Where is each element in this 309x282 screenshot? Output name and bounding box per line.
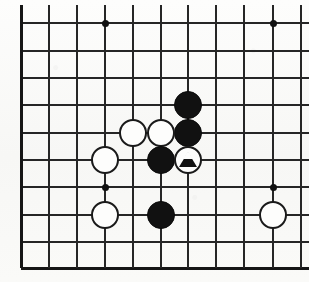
white-stone[interactable]: [147, 119, 175, 147]
white-stone-marked-triangle[interactable]: [174, 146, 202, 174]
black-stone[interactable]: [147, 201, 175, 229]
black-stone[interactable]: [174, 91, 202, 119]
black-stone[interactable]: [147, 146, 175, 174]
stone-layer: [0, 0, 309, 282]
go-board-diagram: [0, 0, 309, 282]
triangle-fill: [183, 151, 193, 159]
white-stone[interactable]: [259, 201, 287, 229]
white-stone[interactable]: [91, 146, 119, 174]
white-stone[interactable]: [91, 201, 119, 229]
white-stone[interactable]: [119, 119, 147, 147]
black-stone[interactable]: [174, 119, 202, 147]
triangle-outline: [179, 152, 197, 167]
